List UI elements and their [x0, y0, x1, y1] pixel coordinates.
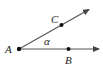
label-a: A: [4, 43, 12, 55]
label-c: C: [51, 13, 59, 25]
angle-alpha-label: α: [44, 35, 50, 47]
label-b: B: [65, 54, 72, 66]
point-a: [17, 47, 21, 51]
point-c: [60, 23, 64, 27]
point-b: [67, 47, 71, 51]
angle-diagram: A C B α: [0, 0, 103, 71]
